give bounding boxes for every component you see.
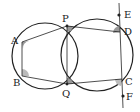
- angle-mark-A: [22, 41, 29, 49]
- segment-AP: [22, 26, 67, 42]
- label-E: E: [124, 9, 131, 20]
- label-Q: Q: [62, 88, 70, 99]
- point-F: [121, 94, 124, 97]
- label-C: C: [125, 76, 133, 87]
- point-E: [117, 13, 120, 16]
- angle-mark-B: [22, 69, 29, 76]
- label-A: A: [10, 35, 19, 46]
- label-F: F: [126, 91, 133, 102]
- label-B: B: [13, 77, 20, 88]
- segment-QC: [67, 79, 122, 84]
- geometry-diagram: A B P Q D C E F: [0, 0, 140, 112]
- label-P: P: [62, 13, 69, 24]
- label-D: D: [124, 26, 132, 37]
- segment-BQ: [22, 76, 67, 84]
- line-EF: [119, 3, 123, 108]
- segment-PD: [67, 26, 120, 32]
- point-P: [66, 25, 69, 28]
- point-Q: [66, 83, 69, 86]
